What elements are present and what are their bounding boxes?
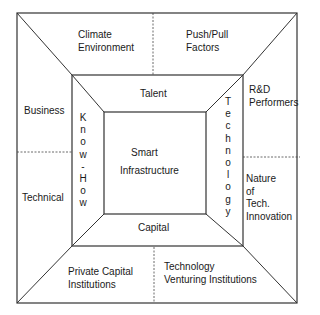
outer-label-technical: Technical bbox=[22, 192, 64, 205]
outer-label-business: Business bbox=[24, 105, 65, 118]
inner-label-capital: Capital bbox=[138, 222, 169, 235]
outer-label-private-capital-institutions: Private Capital Institutions bbox=[68, 266, 133, 291]
outer-label-push-pull-factors: Push/Pull Factors bbox=[186, 29, 228, 54]
center-label-smart: Smart bbox=[131, 147, 158, 160]
outer-label-rd-performers: R&D Performers bbox=[249, 84, 298, 109]
outer-label-nature-of-tech-innovation: Nature of Tech. Innovation bbox=[246, 173, 292, 223]
center-label-infrastructure: Infrastructure bbox=[120, 165, 179, 178]
outer-label-technology-venturing-institutions: Technology Venturing Institutions bbox=[164, 261, 257, 286]
inner-label-talent: Talent bbox=[140, 88, 167, 101]
inner-label-technology: T e c h n o l o g y bbox=[223, 96, 233, 218]
outer-label-climate-environment: Climate Environment bbox=[78, 29, 134, 54]
center-box bbox=[104, 112, 206, 214]
inner-label-know-how: K n o w - H o w bbox=[78, 112, 88, 210]
